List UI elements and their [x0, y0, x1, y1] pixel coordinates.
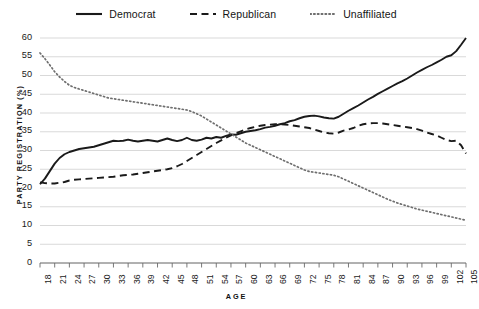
- x-tick-label: 72: [308, 274, 318, 284]
- x-tick-label: 99: [440, 274, 450, 284]
- y-tick-label: 40: [10, 107, 32, 117]
- x-tick-label: 30: [102, 274, 112, 284]
- x-tick-label: 84: [367, 274, 377, 284]
- series-line-democrat: [40, 38, 466, 184]
- x-tick-label: 63: [264, 274, 274, 284]
- x-tick-label: 75: [323, 274, 333, 284]
- y-tick-label: 10: [10, 219, 32, 229]
- y-tick-label: 55: [10, 50, 32, 60]
- y-tick-label: 35: [10, 125, 32, 135]
- x-tick-label: 66: [278, 274, 288, 284]
- x-tick-label: 93: [411, 274, 421, 284]
- series-line-unaffiliated: [40, 53, 466, 220]
- x-tick-label: 27: [87, 274, 97, 284]
- x-tick-label: 102: [455, 270, 465, 284]
- y-tick-label: 25: [10, 163, 32, 173]
- x-tick-label: 24: [73, 274, 83, 284]
- x-tick-label: 39: [146, 274, 156, 284]
- y-tick-label: 15: [10, 200, 32, 210]
- x-tick-label: 48: [190, 274, 200, 284]
- x-tick-label: 96: [425, 274, 435, 284]
- y-tick-label: 50: [10, 69, 32, 79]
- x-tick-label: 90: [396, 274, 406, 284]
- y-tick-label: 0: [10, 257, 32, 267]
- x-tick-label: 36: [132, 274, 142, 284]
- x-tick-label: 57: [234, 274, 244, 284]
- x-tick-label: 78: [337, 274, 347, 284]
- x-tick-label: 81: [352, 274, 362, 284]
- x-tick-label: 21: [58, 274, 68, 284]
- x-tick-label: 45: [176, 274, 186, 284]
- y-tick-label: 45: [10, 88, 32, 98]
- x-tick-label: 18: [43, 274, 53, 284]
- x-tick-label: 60: [249, 274, 259, 284]
- x-tick-label: 42: [161, 274, 171, 284]
- y-tick-label: 20: [10, 182, 32, 192]
- x-tick-label: 33: [117, 274, 127, 284]
- x-tick-label: 54: [220, 274, 230, 284]
- x-tick-label: 87: [381, 274, 391, 284]
- x-tick-label: 51: [205, 274, 215, 284]
- x-tick-label: 105: [469, 270, 479, 284]
- x-tick-label: 69: [293, 274, 303, 284]
- y-tick-label: 5: [10, 238, 32, 248]
- y-tick-label: 60: [10, 32, 32, 42]
- series-line-republican: [40, 123, 466, 183]
- y-tick-label: 30: [10, 144, 32, 154]
